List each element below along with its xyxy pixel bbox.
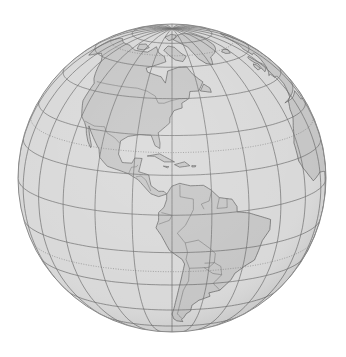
globe-map[interactable] bbox=[0, 0, 346, 357]
globe-shading bbox=[18, 24, 326, 332]
